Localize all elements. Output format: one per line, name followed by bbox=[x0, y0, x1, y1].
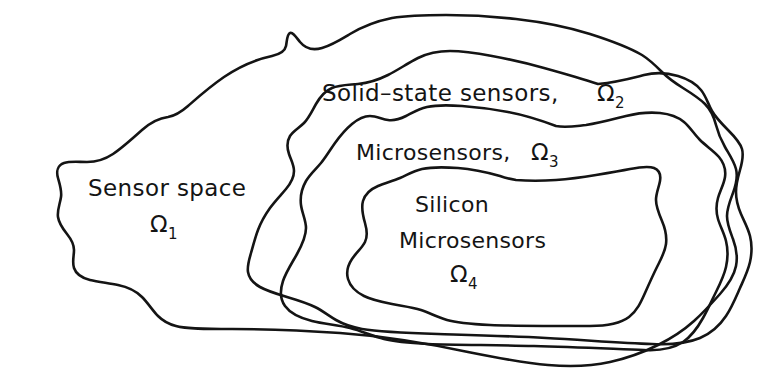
region-label-omega3-symbol: Ω bbox=[531, 139, 549, 165]
region-label-omega4-name-line1: Silicon bbox=[415, 192, 489, 217]
region-label-omega2-subscript: 2 bbox=[615, 94, 625, 112]
region-label-omega3-subscript: 3 bbox=[549, 153, 559, 171]
nested-set-diagram: Sensor space Ω 1 Solid–state sensors, Ω … bbox=[0, 0, 772, 376]
region-label-omega1-subscript: 1 bbox=[168, 225, 178, 243]
region-label-omega1-name: Sensor space bbox=[88, 175, 246, 201]
region-label-omega4-subscript: 4 bbox=[468, 275, 478, 293]
region-label-omega2-name: Solid–state sensors, bbox=[322, 80, 559, 106]
region-label-omega4-name-line2: Microsensors bbox=[399, 228, 546, 253]
region-label-omega1-symbol: Ω bbox=[150, 211, 168, 237]
venn-diagram-canvas: Sensor space Ω 1 Solid–state sensors, Ω … bbox=[0, 0, 772, 376]
region-label-omega3-name: Microsensors, bbox=[356, 140, 510, 165]
region-label-omega2-symbol: Ω bbox=[597, 80, 615, 106]
region-label-omega4-symbol: Ω bbox=[450, 261, 468, 287]
